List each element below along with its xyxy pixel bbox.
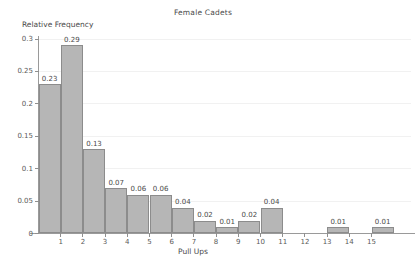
x-axis-line	[30, 233, 415, 234]
bar	[83, 149, 105, 233]
y-axis-tick	[35, 39, 39, 40]
x-axis-tick	[304, 233, 305, 237]
x-axis-tick	[127, 233, 128, 237]
y-axis-tick-label: 0.05	[5, 197, 33, 205]
x-axis-tick	[216, 233, 217, 237]
x-axis-tick-label: 12	[298, 238, 312, 246]
x-axis-tick-label: 7	[187, 238, 201, 246]
x-axis-tick	[82, 233, 83, 237]
y-axis-tick	[35, 71, 39, 72]
x-axis-tick	[171, 233, 172, 237]
y-axis-tick	[35, 233, 39, 234]
x-axis-tick	[238, 233, 239, 237]
y-axis-tick-label: 0.3	[5, 35, 33, 43]
y-axis-tick	[35, 201, 39, 202]
x-axis-tick-label: 9	[231, 238, 245, 246]
x-axis-tick	[349, 233, 350, 237]
x-axis-tick-label: 8	[209, 238, 223, 246]
x-axis-tick-label: 13	[320, 238, 334, 246]
y-axis-tick-label: 0.15	[5, 132, 33, 140]
x-axis-tick	[327, 233, 328, 237]
x-axis-tick-label: 1	[54, 238, 68, 246]
gridline	[39, 136, 411, 137]
x-axis-tick	[105, 233, 106, 237]
bar	[105, 188, 127, 233]
bar-value-label: 0.02	[232, 211, 266, 219]
x-axis-tick	[149, 233, 150, 237]
bar-value-label: 0.01	[366, 218, 400, 226]
x-axis-tick-label: 2	[76, 238, 90, 246]
bar-value-label: 0.13	[77, 140, 111, 148]
x-axis-tick-label: 3	[98, 238, 112, 246]
plot-area: 0.230.290.130.070.060.060.040.020.010.02…	[0, 0, 418, 267]
bar-value-label: 0.29	[55, 36, 89, 44]
x-axis-tick-label: 5	[143, 238, 157, 246]
y-axis-tick-label: 0.1	[5, 165, 33, 173]
bar-value-label: 0.06	[144, 185, 178, 193]
gridline	[39, 71, 411, 72]
x-axis-tick-label: 4	[120, 238, 134, 246]
x-axis-tick-label: 10	[254, 238, 268, 246]
bar-value-label: 0.04	[255, 198, 289, 206]
x-axis-tick	[282, 233, 283, 237]
y-axis-tick	[35, 168, 39, 169]
x-axis-tick	[60, 233, 61, 237]
y-axis-tick	[35, 103, 39, 104]
x-axis-tick-label: 14	[342, 238, 356, 246]
gridline	[39, 103, 411, 104]
x-axis-tick-label: 15	[365, 238, 379, 246]
y-axis-tick-label: 0	[5, 230, 33, 238]
x-axis-tick-label: 6	[165, 238, 179, 246]
bar	[39, 84, 61, 233]
y-axis-tick-label: 0.25	[5, 67, 33, 75]
bar	[127, 195, 149, 234]
x-axis-tick	[260, 233, 261, 237]
x-axis-tick	[371, 233, 372, 237]
bar-value-label: 0.01	[321, 218, 355, 226]
y-axis-tick	[35, 136, 39, 137]
gridline	[39, 39, 411, 40]
y-axis-tick-label: 0.2	[5, 100, 33, 108]
chart-figure: Female Cadets Relative Frequency Pull Up…	[0, 0, 418, 267]
x-axis-tick-label: 11	[276, 238, 290, 246]
bar-value-label: 0.04	[166, 198, 200, 206]
x-axis-tick	[193, 233, 194, 237]
